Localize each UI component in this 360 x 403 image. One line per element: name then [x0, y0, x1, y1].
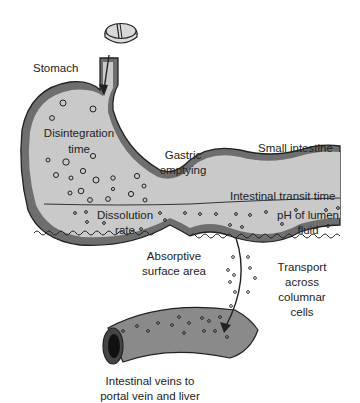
- label-gastric-emptying: Gastric emptying: [158, 148, 208, 178]
- label-absorptive-line2: surface area: [140, 264, 208, 279]
- label-small-intestine: Small intestine: [258, 141, 333, 156]
- label-transport-line1: Transport: [272, 260, 332, 275]
- label-intestinal-veins: Intestinal veins to portal vein and live…: [90, 374, 210, 403]
- label-disintegration: Disintegration time: [36, 126, 122, 157]
- intestinal-vein-shape: [103, 307, 258, 364]
- label-gastric-line1: Gastric: [158, 148, 208, 163]
- label-transit-time: Intestinal transit time: [230, 189, 335, 204]
- label-transport-line4: cells: [272, 305, 332, 320]
- tablet-icon: [105, 24, 137, 44]
- label-stomach: Stomach: [33, 61, 78, 76]
- label-dissolution-rate: Dissolution rate: [95, 208, 155, 238]
- label-transport-line2: across: [272, 275, 332, 290]
- label-absorptive-line1: Absorptive: [140, 249, 208, 264]
- label-dissolution-line1: Dissolution: [95, 208, 155, 223]
- label-veins-line2: portal vein and liver: [90, 389, 210, 403]
- label-ph-line2: fluid: [276, 223, 340, 238]
- label-disintegration-line1: Disintegration: [36, 126, 122, 141]
- label-transport-line3: columnar: [272, 290, 332, 305]
- label-transport: Transport across columnar cells: [272, 260, 332, 320]
- label-dissolution-line2: rate: [95, 223, 155, 238]
- label-ph-lumen: pH of lumen fluid: [276, 208, 340, 238]
- label-veins-line1: Intestinal veins to: [90, 374, 210, 389]
- label-absorptive-surface: Absorptive surface area: [140, 249, 208, 279]
- label-ph-line1: pH of lumen: [276, 208, 340, 223]
- label-gastric-line2: emptying: [158, 163, 208, 178]
- label-disintegration-line2: time: [36, 142, 122, 157]
